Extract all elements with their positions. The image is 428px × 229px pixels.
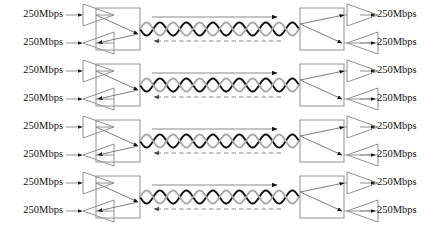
lane-1: 250Mbps250Mbps250Mbps250Mbps	[23, 4, 416, 54]
lane-2-left-hybrid-box	[96, 64, 140, 106]
lane-4-right-hybrid-box	[300, 176, 344, 218]
lane-1-right-hybrid-rx-path	[300, 15, 344, 24]
lane-2-right-rx-label: 250Mbps	[377, 92, 417, 103]
lane-3-right-rx-label: 250Mbps	[377, 148, 417, 159]
lane-4-right-rx-label: 250Mbps	[377, 204, 417, 215]
lane-3: 250Mbps250Mbps250Mbps250Mbps	[23, 116, 416, 166]
lane-2-right-hybrid-box	[300, 64, 344, 106]
lane-2-right-hybrid-rx-path	[300, 71, 344, 80]
lane-4-left-rx-label: 250Mbps	[23, 204, 63, 215]
lane-1-left-hybrid-box	[96, 8, 140, 50]
lane-3-left-rx-label: 250Mbps	[23, 148, 63, 159]
lane-2-right-hybrid-tx-path	[300, 80, 342, 99]
lane-1-right-tx-label: 250Mbps	[377, 8, 417, 19]
lane-2-right-tx-label: 250Mbps	[377, 64, 417, 75]
lane-3-right-hybrid-box	[300, 120, 344, 162]
lane-2-left-rx-label: 250Mbps	[23, 92, 63, 103]
lane-3-right-tx-label: 250Mbps	[377, 120, 417, 131]
lane-3-right-hybrid-tx-path	[300, 136, 342, 155]
lane-1-right-hybrid-box	[300, 8, 344, 50]
lane-3-left-tx-label: 250Mbps	[23, 120, 63, 131]
network-diagram: 250Mbps250Mbps250Mbps250Mbps250Mbps250Mb…	[0, 0, 428, 229]
lane-4-right-tx-label: 250Mbps	[377, 176, 417, 187]
lane-4: 250Mbps250Mbps250Mbps250Mbps	[23, 172, 416, 222]
lane-1-left-tx-label: 250Mbps	[23, 8, 63, 19]
lanes-group: 250Mbps250Mbps250Mbps250Mbps250Mbps250Mb…	[23, 4, 416, 222]
diagram-canvas: 250Mbps250Mbps250Mbps250Mbps250Mbps250Mb…	[0, 0, 428, 229]
lane-4-right-hybrid-rx-path	[300, 183, 344, 192]
lane-2: 250Mbps250Mbps250Mbps250Mbps	[23, 60, 416, 110]
lane-4-left-hybrid-tx-path	[96, 183, 138, 202]
lane-1-right-rx-label: 250Mbps	[377, 36, 417, 47]
lane-2-left-hybrid-tx-path	[96, 71, 138, 90]
lane-4-left-hybrid-box	[96, 176, 140, 218]
lane-4-left-tx-label: 250Mbps	[23, 176, 63, 187]
lane-3-left-hybrid-tx-path	[96, 127, 138, 146]
lane-1-left-hybrid-tx-path	[96, 15, 138, 34]
lane-1-right-hybrid-tx-path	[300, 24, 342, 43]
lane-3-right-hybrid-rx-path	[300, 127, 344, 136]
lane-1-left-rx-label: 250Mbps	[23, 36, 63, 47]
lane-2-left-tx-label: 250Mbps	[23, 64, 63, 75]
lane-4-right-hybrid-tx-path	[300, 192, 342, 211]
lane-3-left-hybrid-box	[96, 120, 140, 162]
